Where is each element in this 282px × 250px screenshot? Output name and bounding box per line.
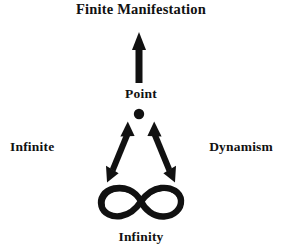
point-dot-icon [134, 109, 144, 119]
right-double-arrow-icon [147, 122, 176, 183]
left-double-arrow-icon [106, 122, 135, 183]
infinity-symbol-icon [101, 188, 181, 217]
up-arrow-icon [132, 32, 146, 83]
diagram-figures [0, 0, 282, 250]
diagram-canvas: Finite Manifestation Point Infinite Dyna… [0, 0, 282, 250]
